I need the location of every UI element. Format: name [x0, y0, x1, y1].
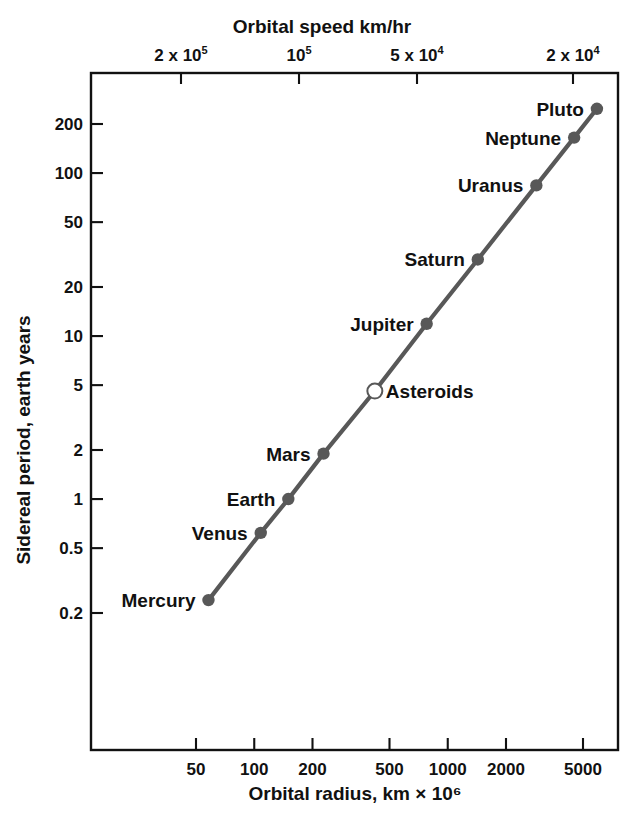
- data-marker-pluto: [591, 103, 603, 115]
- data-label-earth: Earth: [227, 489, 276, 510]
- bottom-tick-label-5: 2000: [487, 760, 525, 779]
- data-label-neptune: Neptune: [485, 128, 561, 149]
- left-tick-label-3: 20: [64, 278, 83, 297]
- data-label-asteroids: Asteroids: [386, 381, 474, 402]
- left-tick-label-9: 0.2: [59, 604, 83, 623]
- left-tick-label-2: 50: [64, 213, 83, 232]
- bottom-tick-label-2: 200: [298, 760, 326, 779]
- data-marker-asteroids: [367, 384, 382, 399]
- data-marker-earth: [282, 493, 294, 505]
- top-tick-label-1: 105: [286, 44, 311, 65]
- bottom-axis-tick-labels: 50100200500100020005000: [187, 760, 602, 779]
- left-axis-ticks: [91, 124, 103, 613]
- bottom-tick-label-4: 1000: [429, 760, 467, 779]
- data-marker-mars: [317, 447, 329, 459]
- left-tick-label-1: 100: [55, 164, 83, 183]
- left-axis-tick-labels: 2001005020105210.50.2: [55, 115, 83, 623]
- data-marker-uranus: [530, 179, 542, 191]
- left-tick-label-4: 10: [64, 327, 83, 346]
- data-label-mercury: Mercury: [122, 590, 196, 611]
- bottom-tick-label-1: 100: [240, 760, 268, 779]
- data-label-pluto: Pluto: [536, 99, 584, 120]
- top-axis-tick-labels: 2 x 1051055 x 1042 x 104: [154, 44, 600, 65]
- data-point-labels: MercuryVenusEarthMarsAsteroidsJupiterSat…: [122, 99, 584, 611]
- x-axis-title: Orbital radius, km × 10⁶: [248, 783, 461, 804]
- data-label-venus: Venus: [192, 523, 248, 544]
- data-label-uranus: Uranus: [458, 175, 523, 196]
- data-label-mars: Mars: [266, 444, 310, 465]
- data-label-jupiter: Jupiter: [350, 314, 414, 335]
- data-marker-jupiter: [420, 318, 432, 330]
- left-tick-label-8: 0.5: [59, 539, 83, 558]
- bottom-tick-label-3: 500: [375, 760, 403, 779]
- y-axis-title: Sidereal period, earth years: [13, 315, 34, 564]
- plot-frame: [91, 73, 618, 750]
- top-axis-ticks: [181, 73, 573, 84]
- bottom-tick-label-6: 5000: [564, 760, 602, 779]
- figure-container: Orbital speed km/hr 2 x 1051055 x 1042 x…: [0, 0, 642, 829]
- orbital-period-vs-radius-chart: Orbital speed km/hr 2 x 1051055 x 1042 x…: [0, 0, 642, 829]
- top-tick-label-3: 2 x 104: [546, 44, 600, 65]
- top-tick-label-2: 5 x 104: [390, 44, 444, 65]
- left-tick-label-6: 2: [74, 441, 83, 460]
- data-marker-venus: [255, 527, 267, 539]
- left-tick-label-7: 1: [74, 490, 83, 509]
- data-label-saturn: Saturn: [405, 249, 465, 270]
- left-tick-label-0: 200: [55, 115, 83, 134]
- data-marker-mercury: [202, 594, 214, 606]
- left-tick-label-5: 5: [74, 376, 83, 395]
- data-marker-saturn: [472, 253, 484, 265]
- top-tick-label-0: 2 x 105: [154, 44, 207, 65]
- bottom-tick-label-0: 50: [187, 760, 206, 779]
- data-marker-neptune: [568, 131, 580, 143]
- bottom-axis-ticks: [196, 738, 583, 750]
- top-axis-title: Orbital speed km/hr: [233, 16, 412, 37]
